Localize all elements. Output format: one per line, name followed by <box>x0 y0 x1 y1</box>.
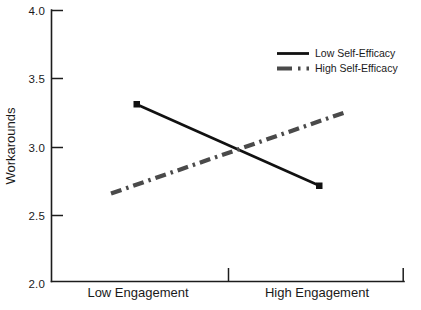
x-tick-label-low-engagement: Low Engagement <box>87 285 189 300</box>
chart-canvas: 4.0 3.5 3.0 2.5 2.0 Workarounds Low Enga… <box>0 0 421 310</box>
legend-label-high-self-efficacy: High Self-Efficacy <box>315 62 398 74</box>
y-tick-label-2-0: 2.0 <box>28 278 45 290</box>
interaction-plot-figure: 4.0 3.5 3.0 2.5 2.0 Workarounds Low Enga… <box>0 0 421 310</box>
y-tick-label-3-0: 3.0 <box>28 142 45 154</box>
y-axis-title: Workarounds <box>3 107 18 185</box>
legend-label-low-self-efficacy: Low Self-Efficacy <box>315 47 396 59</box>
x-tick-label-high-engagement: High Engagement <box>265 285 369 300</box>
chart-legend: Low Self-Efficacy High Self-Efficacy <box>277 47 398 74</box>
series-low-marker-start <box>134 101 141 108</box>
y-tick-label-4-0: 4.0 <box>28 5 45 17</box>
x-axis-ticks <box>229 268 404 282</box>
y-axis-ticks <box>52 11 64 216</box>
y-tick-labels: 4.0 3.5 3.0 2.5 2.0 <box>28 5 45 290</box>
y-tick-label-3-5: 3.5 <box>28 73 45 85</box>
y-tick-label-2-5: 2.5 <box>28 210 45 222</box>
x-tick-labels: Low Engagement High Engagement <box>87 285 369 300</box>
series-low-marker-end <box>316 183 323 190</box>
